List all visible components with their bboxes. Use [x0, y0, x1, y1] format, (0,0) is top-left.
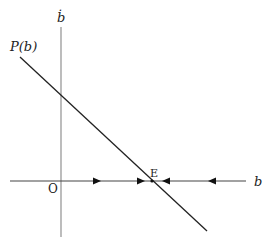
curve-label: P(b)	[9, 39, 37, 54]
p-of-b-line	[20, 57, 207, 231]
equilibrium-label: E	[150, 167, 158, 180]
phase-diagram: ḃ b O P(b) E	[0, 0, 267, 242]
arrow-left-icon	[208, 178, 216, 185]
arrow-left-icon	[162, 178, 170, 185]
arrow-right-icon	[93, 178, 101, 185]
arrow-right-icon	[137, 178, 145, 185]
y-axis-label: ḃ	[57, 9, 65, 25]
origin-label: O	[48, 182, 58, 196]
x-axis-label: b	[254, 174, 262, 189]
